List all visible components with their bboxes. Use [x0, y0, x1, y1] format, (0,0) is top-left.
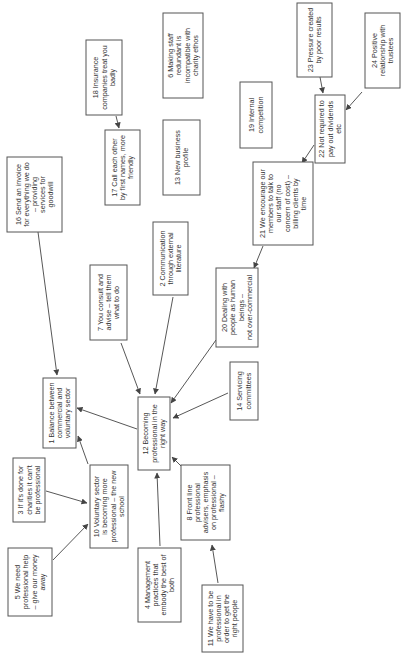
node-20: 20 Dealing withpeople as humanbeings –no…: [216, 268, 258, 347]
edge-16-to-1: [38, 232, 57, 375]
node-11: 11 We have to beprofessional inorder to …: [202, 585, 243, 652]
edge-23-to-22: [320, 77, 323, 93]
node-label-line: charity ethos: [191, 35, 200, 76]
node-1: 1 Balance betweencommercial andvoluntary…: [43, 378, 76, 448]
node-label-line: right way: [158, 419, 167, 448]
node-5: 5 We needprofessional help– give our mon…: [8, 548, 52, 616]
node-label-line: what to do: [112, 286, 121, 320]
node-7: 7 You consult andadvise – tell themwhat …: [90, 265, 127, 340]
node-label-line: be professional: [33, 465, 42, 514]
node-22: 22 Not required topay out dividendsetc: [315, 95, 345, 163]
edge-2-to-12: [155, 297, 173, 394]
edge-24-to-22: [346, 92, 362, 110]
node-17: 17 Call each otherby first names, morefr…: [105, 130, 140, 205]
node-label-line: voluntary sector: [63, 387, 72, 438]
edge-14-to-12: [173, 393, 228, 418]
node-19: 19 Internalcompetition: [240, 82, 272, 148]
node-6: 6 Making staffredundant isincompatible w…: [163, 13, 203, 98]
node-13: 13 New businessprofile: [163, 120, 200, 195]
node-label: 6 Making staffredundant isincompatible w…: [166, 28, 200, 83]
node-3: 3 If it's done forcharities it can'tbe p…: [13, 458, 45, 522]
node-10: 10 Voluntary sectoris becoming moreprofe…: [90, 465, 128, 548]
node-4: 4 Managementpractices thatembody the bes…: [138, 548, 181, 622]
node-21: 21 We encourage ourmembers to talk toour…: [253, 162, 313, 245]
edge-5-to-10: [53, 524, 88, 560]
edge-7-to-12: [121, 343, 140, 394]
node-label-line: time: [299, 197, 308, 211]
node-label-line: not over-commercial: [245, 275, 254, 341]
node-label-line: literature: [174, 245, 183, 273]
node-label-line: flashy: [217, 493, 226, 512]
node-18: 18 Insurancecompanies treat youbadly: [86, 40, 122, 115]
edge-11-to-8: [212, 545, 218, 583]
node-label-line: committees: [244, 372, 253, 409]
node-label-line: school: [117, 496, 126, 517]
node-label-line: friendly: [126, 156, 135, 180]
node-label-line: away: [38, 573, 47, 590]
edge-10-to-1: [78, 436, 88, 464]
concept-map: 1 Balance betweencommercial andvoluntary…: [0, 0, 407, 668]
edge-12-to-1: [77, 408, 137, 429]
node-label: 19 Internalcompetition: [247, 97, 264, 134]
node-label: 3 If it's done forcharities it can'tbe p…: [16, 465, 41, 515]
node-label-line: goodwill: [46, 181, 55, 207]
node-label: 23 Pressure createdby poor results: [306, 8, 323, 73]
node-label: 20 Dealing withpeople as humanbeings –no…: [220, 275, 254, 341]
node-label-line: competition: [256, 97, 265, 134]
node-12: 12 Becomingprofessional in theright way: [138, 397, 170, 470]
node-2: 2 Communicationthrough externalliteratur…: [153, 222, 188, 295]
node-label: 1 Balance betweencommercial andvoluntary…: [47, 382, 72, 443]
node-label-line: trustees: [386, 37, 395, 63]
edge-4-to-12: [157, 473, 160, 546]
node-label-line: etc: [334, 124, 343, 134]
edge-20-to-12: [171, 340, 216, 403]
edge-3-to-10: [46, 491, 87, 503]
edge-21-to-20: [254, 246, 263, 268]
node-14: 14 Servicingcommittees: [230, 362, 258, 420]
node-label-line: right people: [230, 600, 239, 638]
node-label-line: badly: [108, 69, 117, 87]
node-23: 23 Pressure createdby poor results: [297, 3, 332, 77]
nodes-layer: 1 Balance betweencommercial andvoluntary…: [7, 3, 400, 652]
edge-22-to-21: [302, 145, 314, 163]
node-8: 8 Front lineprofessionaladvisers, emphas…: [181, 465, 230, 540]
node-label-line: profile: [181, 148, 190, 168]
node-label-line: both: [167, 578, 176, 592]
node-16: 16 Send an invoicefor everything we do– …: [7, 157, 62, 232]
node-label: 14 Servicingcommittees: [235, 371, 252, 411]
node-label-line: by poor results: [314, 16, 323, 64]
edge-18-to-17: [116, 116, 119, 128]
node-24: 24 Positiverelationship withtrustees: [365, 13, 400, 88]
